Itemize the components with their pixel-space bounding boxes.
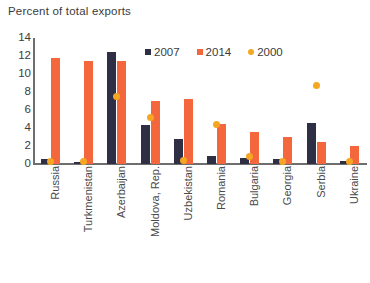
bar-2007 bbox=[141, 125, 150, 164]
bar-2014 bbox=[184, 99, 193, 164]
bar-group bbox=[138, 38, 171, 164]
x-tick-label: Georgia bbox=[281, 166, 293, 205]
bar-2007 bbox=[207, 156, 216, 164]
x-tick-label: Russia bbox=[49, 166, 61, 200]
plot-area bbox=[33, 38, 365, 164]
data-point-2000 bbox=[213, 121, 220, 128]
y-tick-label: 0 bbox=[25, 158, 31, 170]
bar-group bbox=[204, 38, 237, 164]
data-point-2000 bbox=[80, 158, 87, 165]
x-tick-label: Azerbaijan bbox=[115, 166, 127, 218]
x-tick-label: Serbia bbox=[315, 166, 327, 198]
x-tick-label: Uzbekistan bbox=[182, 166, 194, 220]
bar-2014 bbox=[151, 101, 160, 164]
chart-title: Percent of total exports bbox=[8, 5, 131, 17]
bar-2014 bbox=[117, 61, 126, 164]
bar-2014 bbox=[317, 142, 326, 165]
y-tick-label: 6 bbox=[25, 104, 31, 116]
y-tick-label: 4 bbox=[25, 122, 31, 134]
y-tick-label: 2 bbox=[25, 140, 31, 152]
bar-group bbox=[104, 38, 137, 164]
bar-chart: Percent of total exports 2007 2014 2000 … bbox=[0, 0, 370, 283]
x-tick-label: Moldova, Rep. bbox=[149, 166, 161, 237]
x-axis-tick-labels: RussiaTurkmenistanAzerbaijanMoldova, Rep… bbox=[33, 166, 367, 281]
bar-group bbox=[304, 38, 337, 164]
bar-group bbox=[71, 38, 104, 164]
y-tick-label: 8 bbox=[25, 86, 31, 98]
bar-2014 bbox=[84, 61, 93, 165]
bar-2014 bbox=[51, 58, 60, 164]
x-tick-label: Romania bbox=[215, 166, 227, 210]
x-tick-label: Bulgaria bbox=[248, 166, 260, 206]
bar-group bbox=[171, 38, 204, 164]
data-point-2000 bbox=[47, 158, 54, 165]
bar-group bbox=[270, 38, 303, 164]
bar-group bbox=[237, 38, 270, 164]
data-point-2000 bbox=[180, 157, 187, 164]
y-tick-label: 10 bbox=[18, 68, 31, 80]
bar-2014 bbox=[217, 124, 226, 165]
bar-group bbox=[337, 38, 370, 164]
y-tick-label: 14 bbox=[18, 32, 31, 44]
bar-group bbox=[38, 38, 71, 164]
data-point-2000 bbox=[147, 114, 154, 121]
bar-2007 bbox=[107, 52, 116, 165]
y-tick-label: 12 bbox=[18, 50, 31, 62]
data-point-2000 bbox=[313, 82, 320, 89]
x-tick-label: Turkmenistan bbox=[82, 166, 94, 232]
x-tick-label: Ukraine bbox=[348, 166, 360, 204]
bar-2007 bbox=[307, 123, 316, 164]
y-axis-tick-labels: 02468101214 bbox=[10, 31, 31, 171]
data-point-2000 bbox=[346, 158, 353, 165]
